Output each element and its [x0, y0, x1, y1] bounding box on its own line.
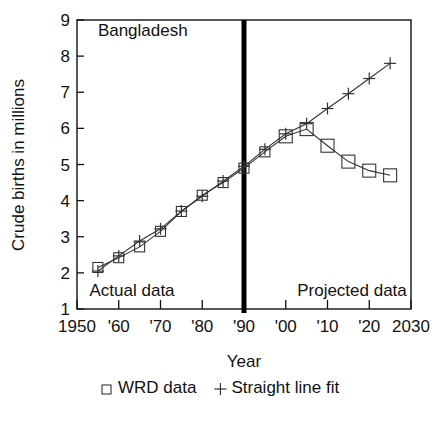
annotation-bangladesh: Bangladesh [98, 21, 188, 40]
legend-label: Straight line fit [231, 378, 339, 397]
x-tick-label: '10 [316, 317, 338, 336]
y-tick-label: 7 [61, 83, 70, 102]
crude-births-line-chart: 123456789 1950'60'70'80'90'00'10'202030 … [0, 0, 432, 422]
legend-entry-straight-line-fit: Straight line fit [214, 378, 339, 397]
x-axis-title: Year [227, 352, 262, 371]
y-tick-label: 3 [61, 228, 70, 247]
y-tick-label: 6 [61, 119, 70, 138]
legend-label: WRD data [118, 378, 197, 397]
x-tick-label: 1950 [58, 317, 96, 336]
annotation-actual-data: Actual data [90, 281, 176, 300]
x-tick-label: '80 [191, 317, 213, 336]
chart-figure: 123456789 1950'60'70'80'90'00'10'202030 … [0, 0, 432, 422]
x-tick-label: '70 [149, 317, 171, 336]
y-axis-title: Crude births in millions [9, 79, 28, 251]
x-tick-label: '90 [233, 317, 255, 336]
y-tick-label: 8 [61, 47, 70, 66]
x-tick-label: '20 [358, 317, 380, 336]
y-tick-label: 9 [61, 11, 70, 30]
y-tick-label: 5 [61, 156, 70, 175]
x-tick-label: '60 [108, 317, 130, 336]
annotation-projected-data: Projected data [297, 281, 407, 300]
y-tick-label: 4 [61, 192, 70, 211]
x-tick-label: '00 [275, 317, 297, 336]
y-tick-label: 2 [61, 264, 70, 283]
x-tick-label: 2030 [392, 317, 430, 336]
